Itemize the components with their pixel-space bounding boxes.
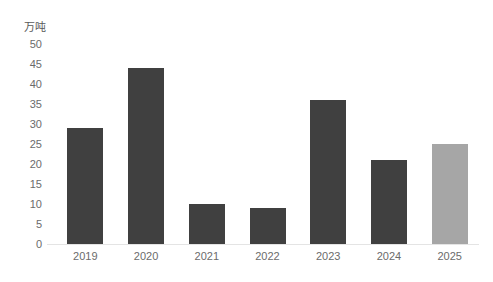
- x-axis-baseline: [47, 244, 479, 245]
- y-axis-tick-label: 0: [36, 239, 42, 250]
- bar-slot: [371, 44, 407, 244]
- bar-2023[interactable]: [310, 100, 346, 244]
- x-axis-tick-label: 2020: [116, 249, 176, 263]
- x-axis-tick-label: 2025: [420, 249, 480, 263]
- y-axis-tick-label: 25: [30, 139, 42, 150]
- y-axis-tick-label: 40: [30, 79, 42, 90]
- y-axis-tick-labels: 05101520253035404550: [0, 44, 50, 244]
- bar-slot: [128, 44, 164, 244]
- y-axis-tick-label: 35: [30, 99, 42, 110]
- bar-slot: [310, 44, 346, 244]
- y-axis-tick-label: 30: [30, 119, 42, 130]
- bar-2025[interactable]: [432, 144, 468, 244]
- plot-area: [55, 44, 480, 244]
- bar-slot: [432, 44, 468, 244]
- y-axis-tick-label: 5: [36, 219, 42, 230]
- x-axis-tick-label: 2021: [177, 249, 237, 263]
- x-axis-tick-label: 2019: [55, 249, 115, 263]
- y-axis-tick-label: 45: [30, 59, 42, 70]
- y-axis-tick-label: 20: [30, 159, 42, 170]
- bar-slot: [189, 44, 225, 244]
- y-axis-tick-label: 50: [30, 39, 42, 50]
- bar-2022[interactable]: [250, 208, 286, 244]
- bar-slot: [67, 44, 103, 244]
- y-axis-tick-label: 10: [30, 199, 42, 210]
- bar-2024[interactable]: [371, 160, 407, 244]
- bar-slot: [250, 44, 286, 244]
- x-axis-tick-labels: 2019202020212022202320242025: [55, 249, 480, 269]
- bar-2021[interactable]: [189, 204, 225, 244]
- bar-chart: 万吨 05101520253035404550 2019202020212022…: [0, 0, 493, 282]
- x-axis-tick-label: 2024: [359, 249, 419, 263]
- y-axis-title: 万吨: [24, 20, 46, 34]
- x-axis-tick-label: 2023: [298, 249, 358, 263]
- x-axis-tick-label: 2022: [238, 249, 298, 263]
- bar-2020[interactable]: [128, 68, 164, 244]
- bar-2019[interactable]: [67, 128, 103, 244]
- y-axis-tick-label: 15: [30, 179, 42, 190]
